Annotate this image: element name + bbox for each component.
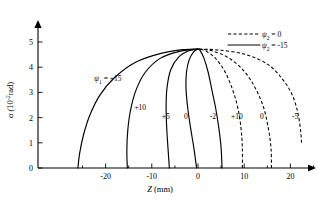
- figure-container: -20-1001020012345 ψ1 = +15+10+50-2+100-5…: [0, 0, 320, 200]
- curve-3: [186, 49, 198, 168]
- curve-labels-group: ψ1 = +15+10+50-2+100-5: [94, 74, 298, 121]
- curve-label-6: 0: [260, 112, 264, 121]
- x-tick-label-0: -20: [100, 172, 111, 181]
- x-tick-label-3: 10: [240, 172, 248, 181]
- curve-6: [198, 49, 271, 168]
- curve-label-3: 0: [184, 112, 188, 121]
- tick-labels-group: -20-1001020012345: [29, 38, 294, 181]
- legend-label-psi2-0: ψ2 = 0: [262, 30, 281, 41]
- x-tick-label-4: 20: [286, 172, 294, 181]
- y-tick-label-2: 2: [29, 114, 33, 123]
- y-tick-label-4: 4: [29, 63, 33, 72]
- y-axis-arrowhead: [34, 20, 41, 28]
- curve-label-7: -5: [292, 112, 298, 121]
- y-tick-label-3: 3: [29, 88, 33, 97]
- curve-label-4: -2: [210, 112, 216, 121]
- plot-canvas: -20-1001020012345 ψ1 = +15+10+50-2+100-5…: [0, 0, 320, 200]
- curve-4: [198, 49, 222, 168]
- y-axis-title: α (10-2rad): [5, 82, 15, 118]
- curve-label-5: +10: [231, 112, 243, 121]
- legend-label-psi2-minus15: ψ2 = -15: [262, 41, 288, 52]
- x-tick-label-2: 0: [196, 172, 200, 181]
- curve-5: [198, 49, 242, 168]
- x-axis-arrowhead: [308, 164, 316, 171]
- y-tick-label-0: 0: [29, 164, 33, 173]
- x-tick-label-1: -10: [146, 172, 157, 181]
- legend: ψ2 = 0 ψ2 = -15: [228, 30, 288, 52]
- curve-label-0: ψ1 = +15: [94, 74, 121, 85]
- data-curves-group: [78, 49, 302, 168]
- curve-2: [166, 49, 198, 168]
- y-tick-label-1: 1: [29, 139, 33, 148]
- curve-label-2: +5: [162, 112, 170, 121]
- x-axis-title: Z (mm): [147, 184, 173, 194]
- y-tick-label-5: 5: [29, 38, 33, 47]
- curve-label-1: +10: [134, 103, 146, 112]
